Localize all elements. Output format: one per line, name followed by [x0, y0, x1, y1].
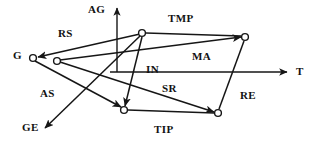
label-sr: SR — [162, 83, 177, 94]
node-bottom-mid — [121, 107, 128, 114]
label-ge: GE — [22, 122, 39, 133]
label-tip: TIP — [154, 124, 174, 135]
node-bottom-right — [215, 110, 222, 117]
node-top-right — [242, 34, 249, 41]
nodes-layer — [30, 30, 249, 117]
node-g-inner — [54, 58, 61, 65]
diagram-page: AGTGRSTMPMAINSRTIPREASGE — [0, 0, 320, 144]
edge-tip — [128, 110, 214, 113]
edge-ma — [60, 37, 241, 60]
label-rs: RS — [58, 28, 73, 39]
edge-ge — [45, 36, 140, 128]
edge-tmp — [146, 33, 241, 36]
label-ma: MA — [192, 51, 211, 62]
label-t: T — [296, 66, 304, 77]
label-g: G — [13, 50, 22, 61]
edges-layer — [35, 33, 244, 128]
label-tmp: TMP — [168, 13, 194, 24]
label-in: IN — [146, 64, 159, 75]
edge-rs — [38, 34, 140, 57]
label-ag: AG — [88, 4, 105, 15]
label-re: RE — [240, 90, 256, 101]
node-top-mid — [139, 30, 146, 37]
label-as: AS — [40, 88, 55, 99]
node-g-outer — [30, 55, 37, 62]
